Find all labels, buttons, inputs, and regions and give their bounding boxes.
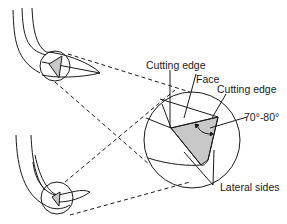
leader-lateral-2 bbox=[213, 150, 214, 185]
label-angle: 70°-80° bbox=[244, 112, 279, 123]
label-cutting-edge-right: Cutting edge bbox=[217, 84, 277, 95]
label-face: Face bbox=[196, 74, 219, 85]
label-lateral-sides: Lateral sides bbox=[220, 182, 280, 193]
leader-face bbox=[184, 74, 196, 118]
upper-instrument bbox=[13, 8, 100, 81]
label-cutting-edge-top: Cutting edge bbox=[146, 60, 206, 71]
lower-instrument bbox=[16, 135, 90, 214]
